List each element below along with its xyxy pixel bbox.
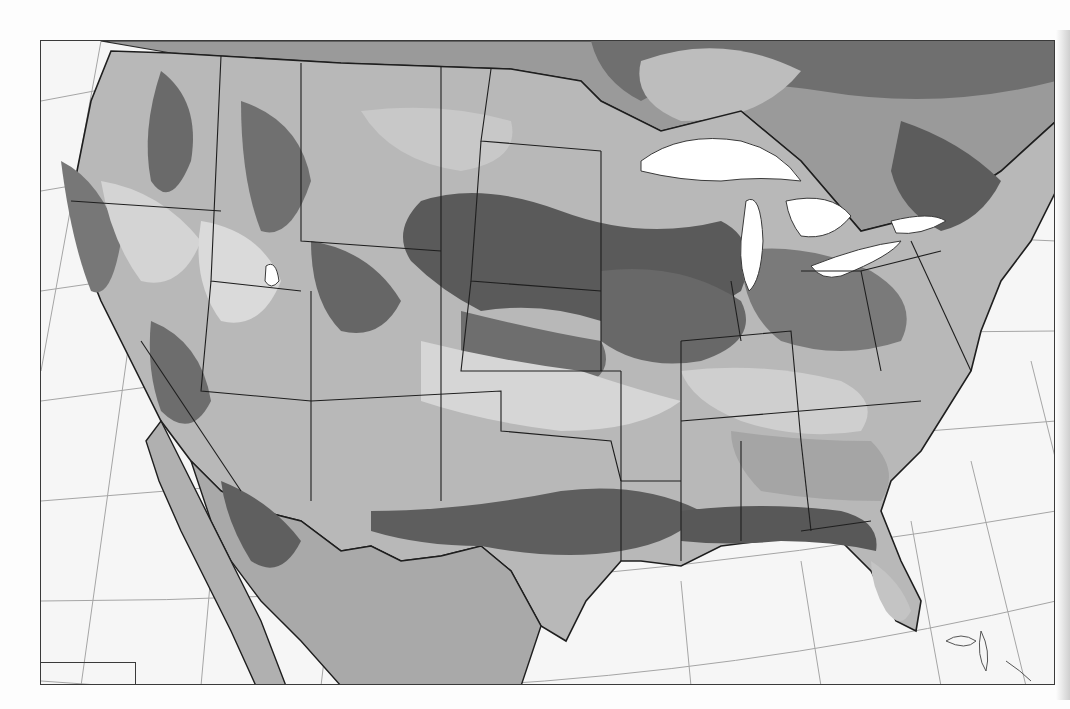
us-zone-map xyxy=(41,41,1055,685)
page-edge-shadow xyxy=(1056,30,1070,700)
map-frame xyxy=(40,40,1055,685)
inset-box xyxy=(40,662,136,685)
map-page xyxy=(0,0,1070,709)
